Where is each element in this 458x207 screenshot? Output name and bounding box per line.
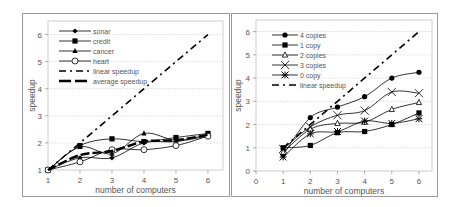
- marker-square-icon: [109, 136, 114, 141]
- legend-label: 2 copies: [300, 52, 327, 60]
- legend-label: cancer: [93, 48, 115, 55]
- marker-star-icon: [280, 154, 287, 161]
- marker-circle-icon: [416, 70, 421, 75]
- x-tick-label: 5: [174, 176, 179, 185]
- marker-circle-open-icon: [141, 147, 147, 153]
- marker-square-icon: [282, 42, 287, 47]
- marker-circle-icon: [308, 115, 313, 120]
- marker-circle-icon: [282, 32, 287, 37]
- legend-label: 1 copy: [300, 42, 321, 50]
- legend-label: 0 copy: [300, 72, 321, 80]
- legend-label: heart: [93, 58, 109, 65]
- marker-square-icon: [362, 129, 367, 134]
- legend-label: linear speedup: [300, 82, 346, 90]
- y-tick-label: 1: [38, 166, 43, 175]
- y-axis-title: speedup: [27, 79, 37, 112]
- y-tick-label: 6: [246, 28, 251, 37]
- chart-right-plot: 01234560123456number of computersspeedup…: [232, 14, 439, 198]
- x-tick-label: 1: [281, 177, 286, 186]
- y-tick-label: 6: [38, 31, 43, 40]
- y-tick-label: 0: [246, 167, 251, 176]
- legend-label: sonar: [93, 28, 111, 35]
- x-tick-label: 1: [46, 176, 51, 185]
- y-tick-label: 5: [38, 58, 43, 67]
- chart-left-panel: 123456123456number of computersspeedupso…: [22, 13, 230, 197]
- marker-square-icon: [72, 38, 77, 43]
- x-tick-label: 4: [142, 176, 147, 185]
- y-tick-label: 3: [38, 112, 43, 121]
- marker-star-icon: [282, 72, 289, 79]
- x-tick-label: 6: [417, 177, 422, 186]
- marker-star-icon: [307, 130, 314, 137]
- y-axis-title: speedup: [233, 79, 243, 112]
- y-tick-label: 4: [246, 74, 251, 83]
- marker-star-icon: [416, 115, 423, 122]
- x-tick-label: 3: [110, 176, 115, 185]
- x-tick-label: 2: [78, 176, 83, 185]
- x-tick-label: 2: [308, 177, 313, 186]
- y-tick-label: 2: [38, 139, 43, 148]
- x-tick-label: 4: [362, 177, 367, 186]
- x-tick-label: 3: [335, 177, 340, 186]
- marker-circle-open-icon: [77, 159, 83, 165]
- marker-circle-icon: [362, 94, 367, 99]
- marker-circle-icon: [335, 105, 340, 110]
- chart-right-panel: 01234560123456number of computersspeedup…: [231, 13, 438, 197]
- x-axis-title: number of computers: [304, 186, 384, 196]
- marker-square-icon: [416, 110, 421, 115]
- marker-star-icon: [361, 118, 368, 125]
- legend-label: 4 copies: [300, 32, 327, 40]
- marker-star-icon: [388, 120, 395, 127]
- x-tick-label: 6: [206, 176, 211, 185]
- marker-star-icon: [334, 128, 341, 135]
- chart-left-plot: 123456123456number of computersspeedupso…: [23, 14, 231, 198]
- marker-square-icon: [308, 143, 313, 148]
- legend-label: average speedup: [93, 78, 147, 86]
- legend-label: 3 copies: [300, 62, 327, 70]
- legend-label: credit: [93, 38, 110, 45]
- y-tick-label: 4: [38, 85, 43, 94]
- y-tick-label: 5: [246, 51, 251, 60]
- y-tick-label: 3: [246, 97, 251, 106]
- marker-circle-icon: [389, 75, 394, 80]
- y-tick-label: 2: [246, 121, 251, 130]
- x-axis-title: number of computers: [95, 185, 175, 195]
- marker-circle-open-icon: [173, 143, 179, 149]
- marker-circle-open-icon: [72, 58, 78, 64]
- legend-label: linear speedup: [93, 68, 139, 76]
- y-tick-label: 1: [246, 144, 251, 153]
- x-tick-label: 0: [254, 177, 259, 186]
- x-tick-label: 5: [390, 177, 395, 186]
